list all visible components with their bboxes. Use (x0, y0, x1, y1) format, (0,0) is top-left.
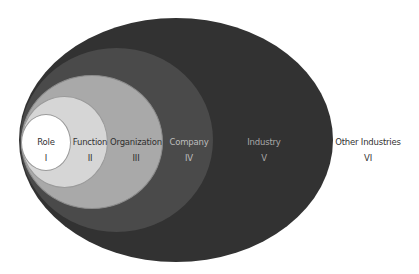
company-label: Company IV (169, 137, 208, 164)
industry-name: Industry (247, 137, 280, 147)
industry-label: Industry V (247, 137, 280, 164)
company-level: IV (169, 153, 208, 164)
nested-scope-diagram: Role I Function II Organization III Comp… (0, 0, 419, 274)
organization-name: Organization (110, 137, 162, 147)
organization-label: Organization III (110, 137, 162, 164)
other-industries-label: Other Industries VI (335, 137, 401, 164)
company-name: Company (169, 137, 208, 147)
industry-level: V (247, 153, 280, 164)
role-level: I (37, 153, 55, 164)
organization-level: III (110, 153, 162, 164)
function-name: Function (73, 137, 108, 147)
other-industries-level: VI (335, 153, 401, 164)
function-level: II (73, 153, 108, 164)
other-industries-name: Other Industries (335, 137, 401, 147)
role-label: Role I (37, 137, 55, 164)
function-label: Function II (73, 137, 108, 164)
role-name: Role (37, 137, 55, 147)
